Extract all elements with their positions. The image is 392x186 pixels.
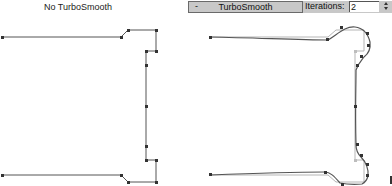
shapes-canvas: [0, 0, 392, 186]
left-spline-vertices: [1, 29, 158, 184]
right-smoothed-vertices: [209, 26, 370, 186]
left-spline: [2, 30, 156, 182]
right-cage: [210, 30, 364, 182]
right-smoothed-spline: [210, 27, 370, 184]
